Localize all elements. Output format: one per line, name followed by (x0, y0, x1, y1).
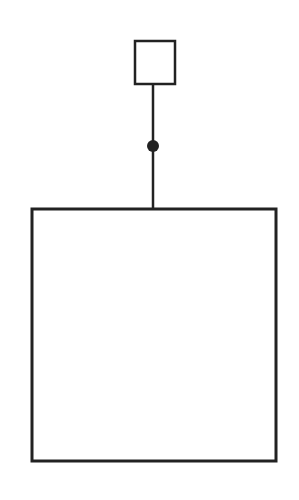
small-square (135, 41, 175, 84)
large-rectangle (32, 209, 276, 461)
diagram-canvas (0, 0, 299, 500)
node-dot (147, 140, 159, 152)
